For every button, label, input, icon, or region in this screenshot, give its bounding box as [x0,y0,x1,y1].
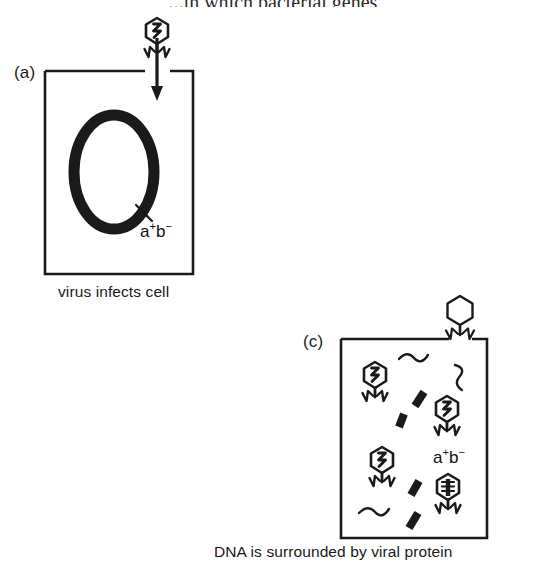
panel-c-empty-phage-coat [446,296,474,339]
figure-root: ...in which bacterial genes (a) (c) a+b−… [0,0,546,567]
panel-a-genotype-label: a+b− [140,222,172,242]
panel-c-phage-particle [435,396,460,435]
panel-a-phage-particle [145,18,170,57]
panel-c-genotype-b: b [449,448,458,467]
panel-c-phage-particle [370,447,395,486]
panel-c-label: (c) [303,332,323,352]
panel-c-transducing-particle [436,474,461,513]
dna-fragment [409,513,418,528]
panel-c-group [341,296,487,538]
viral-protein-squiggle [359,508,389,515]
cut-off-caption-text: ...in which bacterial genes [0,0,546,7]
panel-c-genotype-label: a+b− [433,448,465,468]
panel-c-genotype-sup-minus: − [458,446,464,458]
panel-a-bacterial-chromosome [74,115,154,229]
panel-a-genotype-b: b [156,222,165,241]
dna-fragment [415,392,424,406]
panel-c-viral-protein-squiggles [359,354,462,515]
viral-protein-squiggle [455,365,462,390]
dna-fragment [411,481,419,495]
panel-a-caption: virus infects cell [58,283,169,301]
dna-fragment [399,414,404,427]
panel-a-label: (a) [14,63,35,83]
panel-c-dna-fragments [399,392,424,528]
panel-a-genotype-sup-minus: − [165,220,171,232]
viral-protein-squiggle [399,354,428,361]
panel-a-cell-outline [45,71,193,274]
panel-c-cell-outline [341,339,487,538]
panel-c-caption: DNA is surrounded by viral protein [214,543,453,561]
panel-c-phage-particle [363,362,388,401]
panel-a-gene-marker-hatches [136,205,152,221]
panel-a-dna-injection-arrow [151,38,163,101]
